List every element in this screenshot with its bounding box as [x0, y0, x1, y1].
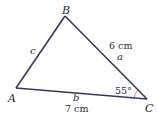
- vertex-label-a: A: [7, 92, 16, 105]
- vertex-label-c: C: [145, 102, 154, 115]
- side-a-bc: [65, 16, 147, 99]
- angle-arc-c: [134, 90, 138, 98]
- side-measure-a: 6 cm: [109, 40, 132, 51]
- side-label-b: b: [73, 92, 79, 103]
- side-label-a: a: [117, 51, 123, 62]
- side-measure-b: 7 cm: [65, 103, 88, 114]
- triangle-diagram: B A C c 6 cm a b 7 cm 55°: [0, 0, 158, 115]
- vertex-label-b: B: [61, 4, 70, 17]
- triangle-svg: B A C c 6 cm a b 7 cm 55°: [0, 0, 158, 115]
- side-c-ab: [16, 16, 65, 88]
- angle-label-c: 55°: [115, 85, 132, 96]
- side-label-c: c: [30, 45, 36, 56]
